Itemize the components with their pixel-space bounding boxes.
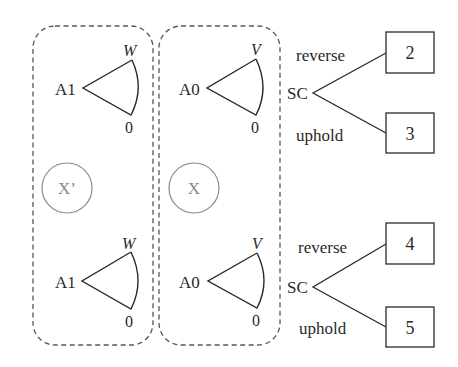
top-label: W: [122, 235, 137, 252]
top-label: V: [252, 235, 264, 252]
lower-action-label: uphold: [299, 319, 347, 338]
node-left-top: A1 W 0: [55, 42, 138, 136]
bottom-label: 0: [252, 312, 260, 329]
player-label: A0: [179, 273, 200, 292]
top-label: V: [251, 41, 263, 58]
circle-label: X’: [58, 179, 76, 198]
circle-label: X: [188, 179, 200, 198]
choice-fan: [83, 60, 138, 115]
sc-player-label: SC: [287, 278, 308, 297]
upper-action-label: reverse: [298, 238, 347, 257]
bottom-label: 0: [125, 313, 133, 330]
player-label: A1: [55, 80, 76, 99]
player-label: A0: [179, 80, 200, 99]
outcome-label: 2: [406, 43, 415, 63]
sc-tree-bottom: SC reverse uphold 4 5: [287, 223, 434, 347]
outcome-label: 3: [406, 124, 415, 144]
sc-player-label: SC: [287, 84, 308, 103]
player-label: A1: [55, 273, 76, 292]
node-middle-bottom: A0 V 0: [179, 235, 264, 329]
choice-fan: [208, 253, 264, 308]
bottom-label: 0: [251, 119, 259, 136]
sc-branches: [313, 53, 386, 133]
sc-tree-top: SC reverse uphold 2 3: [287, 32, 434, 153]
top-label: W: [123, 42, 138, 59]
outcome-label: 5: [406, 318, 415, 338]
choice-fan: [82, 252, 138, 309]
node-middle-top: A0 V 0: [179, 41, 263, 136]
outcome-label: 4: [406, 234, 415, 254]
game-tree-diagram: A1 W 0 X’ A1 W 0 A0 V 0 X A0 V 0 SC reve…: [0, 0, 458, 367]
lower-action-label: uphold: [296, 126, 344, 145]
bottom-label: 0: [125, 119, 133, 136]
info-set-circle-left: X’: [42, 163, 92, 213]
choice-fan: [207, 59, 263, 115]
info-set-circle-middle: X: [169, 163, 219, 213]
upper-action-label: reverse: [296, 46, 345, 65]
node-left-bottom: A1 W 0: [55, 235, 138, 330]
